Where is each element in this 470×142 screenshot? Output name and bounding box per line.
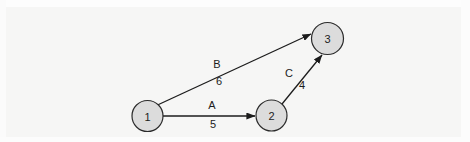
node-3: 3 — [312, 23, 344, 55]
edge-B-weight-label: 6 — [216, 75, 222, 87]
edge-A-weight-label: 5 — [210, 118, 216, 130]
edge-A: A 5 — [163, 99, 255, 130]
edge-C: C 4 — [282, 55, 322, 104]
node-1: 1 — [132, 101, 163, 132]
diagram-figure: A 5 B 6 C 4 1 2 3 — [0, 0, 470, 142]
diagram-canvas: A 5 B 6 C 4 1 2 3 — [0, 0, 470, 142]
node-2: 2 — [256, 100, 287, 131]
node-1-label: 1 — [144, 111, 150, 123]
edge-C-name-label: C — [285, 67, 293, 79]
node-3-label: 3 — [324, 33, 330, 45]
node-2-label: 2 — [268, 110, 274, 122]
edge-C-weight-label: 4 — [299, 79, 305, 91]
edge-B-name-label: B — [213, 58, 220, 70]
edge-A-name-label: A — [208, 99, 216, 111]
